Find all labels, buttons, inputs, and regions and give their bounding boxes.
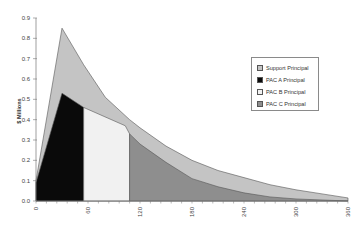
legend: Support Principal PAC A Principal PAC B …	[251, 57, 319, 111]
y-tick-label: 0.0	[22, 198, 31, 204]
x-tick-label: 180	[189, 206, 195, 217]
legend-item-pac-a: PAC A Principal	[257, 74, 318, 86]
y-tick-label: 0.4	[22, 117, 31, 123]
plot-areas	[36, 28, 348, 201]
y-tick-label: 0.1	[22, 178, 31, 184]
x-tick-label: 120	[137, 206, 143, 217]
legend-label: PAC A Principal	[266, 77, 305, 83]
x-tick-label: 300	[293, 206, 299, 217]
legend-item-support: Support Principal	[257, 62, 318, 74]
legend-label: PAC B Principal	[266, 89, 305, 95]
legend-label: Support Principal	[266, 65, 309, 71]
y-tick-label: 0.5	[22, 96, 31, 102]
legend-label: PAC C Principal	[266, 101, 306, 107]
swatch-pac-a	[257, 77, 263, 83]
x-tick-label: 240	[241, 206, 247, 217]
y-axis-title: $ Millions	[16, 96, 22, 126]
legend-item-pac-c: PAC C Principal	[257, 98, 318, 110]
swatch-pac-b	[257, 89, 263, 95]
swatch-support	[257, 65, 263, 71]
x-tick-label: 0	[33, 206, 39, 210]
y-tick-label: 0.6	[22, 76, 31, 82]
x-tick-label: 60	[85, 206, 91, 213]
legend-item-pac-b: PAC B Principal	[257, 86, 318, 98]
y-tick-label: 0.2	[22, 157, 31, 163]
y-tick-label: 0.9	[22, 15, 31, 21]
swatch-pac-c	[257, 101, 263, 107]
x-tick-label: 360	[345, 206, 351, 217]
y-tick-label: 0.7	[22, 56, 31, 62]
y-tick-label: 0.3	[22, 137, 31, 143]
chart-canvas: 0.00.10.20.30.40.50.60.70.80.90601201802…	[0, 0, 364, 234]
y-tick-label: 0.8	[22, 35, 31, 41]
